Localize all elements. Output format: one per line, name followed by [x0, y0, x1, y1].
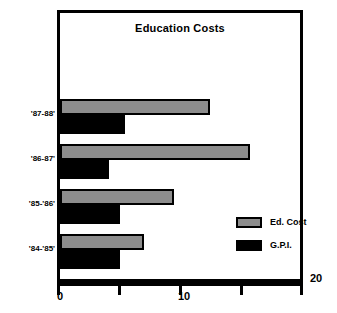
x-tick-label-20: 20 — [310, 272, 322, 284]
legend-label-ed-cost: Ed. Cost — [270, 217, 307, 227]
gpi-swatch-icon — [236, 240, 262, 251]
legend-item-gpi: G.P.I. — [236, 236, 307, 254]
bar-gpi-87-88 — [60, 115, 125, 134]
x-tick-5 — [118, 282, 121, 295]
bar-gpi-86-87 — [60, 160, 109, 179]
legend: Ed. Cost G.P.I. — [236, 213, 307, 259]
category-label-86-87: '86-87' — [3, 154, 55, 163]
bar-ed-cost-87-88 — [60, 99, 210, 115]
ed-cost-swatch-icon — [236, 217, 262, 228]
x-tick-label-0: 0 — [57, 290, 63, 302]
x-tick-20 — [300, 282, 303, 295]
x-tick-label-10: 10 — [178, 290, 190, 302]
x-tick-15 — [240, 282, 243, 295]
category-label-85-86: '85-'86' — [3, 199, 55, 208]
education-costs-bar-chart: Education Costs '87-88' '86-87' '85-'86'… — [0, 0, 337, 313]
category-label-84-85: '84-'85' — [3, 244, 55, 253]
bar-ed-cost-84-85 — [60, 234, 144, 250]
category-label-87-88: '87-88' — [3, 109, 55, 118]
bar-ed-cost-86-87 — [60, 144, 250, 160]
bar-ed-cost-85-86 — [60, 189, 174, 205]
category-axis-labels: '87-88' '86-87' '85-'86' '84-'85' — [0, 13, 55, 279]
bar-gpi-85-86 — [60, 205, 120, 224]
legend-item-ed-cost: Ed. Cost — [236, 213, 307, 231]
bar-gpi-84-85 — [60, 250, 120, 269]
legend-label-gpi: G.P.I. — [270, 240, 292, 250]
